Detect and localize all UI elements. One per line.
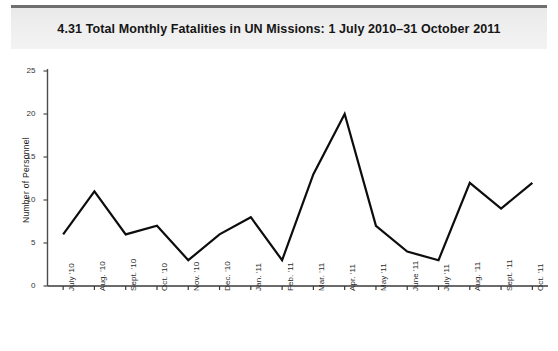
x-axis-tick-label: June '11 — [411, 261, 420, 291]
y-axis-tick-label: 5 — [14, 239, 36, 247]
y-axis-tick-label: 15 — [14, 153, 36, 161]
x-axis-tick-label: Dec. '10 — [223, 261, 232, 291]
x-axis-tick-label: July '11 — [442, 264, 451, 291]
x-axis-tick-label: Nov. '10 — [192, 262, 201, 291]
x-axis-tick-label: May '11 — [379, 263, 388, 291]
data-series-line — [63, 114, 532, 260]
x-axis-tick-label: Oct. '10 — [160, 263, 169, 291]
x-axis-tick-label: Sept. '10 — [129, 259, 138, 291]
y-axis-tick-label: 10 — [14, 196, 36, 204]
x-axis-tick-label: Sept. '11 — [505, 259, 514, 291]
x-axis-tick-label: Aug. '11 — [473, 262, 482, 291]
y-axis-title: Number of Personnel — [21, 115, 31, 245]
x-axis-tick-label: Apr. '11 — [348, 264, 357, 291]
x-axis-tick-label: Jan. '11 — [254, 263, 263, 291]
chart-plot-area: Number of Personnel 0510152025 July '10A… — [0, 55, 558, 351]
y-axis-tick-label: 25 — [14, 67, 36, 75]
x-axis-tick-label: Mar. '11 — [317, 263, 326, 291]
x-axis-tick-label: Aug. '10 — [98, 261, 107, 291]
figure-header-band: 4.31 Total Monthly Fatalities in UN Miss… — [11, 5, 547, 49]
y-axis-tick-label: 0 — [14, 282, 36, 290]
y-axis-tick-label: 20 — [14, 110, 36, 118]
page-title: 4.31 Total Monthly Fatalities in UN Miss… — [11, 22, 547, 36]
x-axis-tick-label: Feb. '11 — [286, 262, 295, 291]
x-axis-tick-label: July '10 — [67, 263, 76, 291]
x-axis-tick-label: Oct. '11 — [536, 263, 545, 291]
line-chart-svg — [0, 55, 558, 351]
